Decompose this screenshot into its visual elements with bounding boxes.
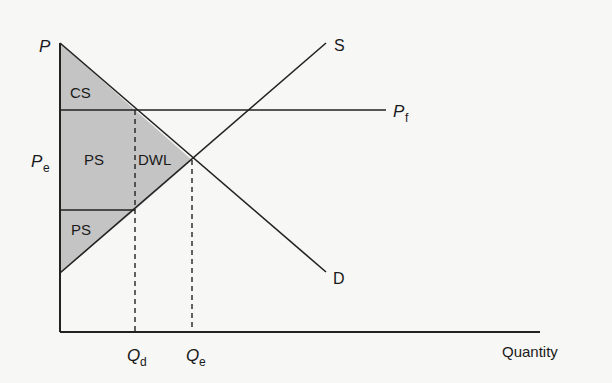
- qd-label-sub: d: [140, 355, 147, 369]
- ps-upper-region-label: PS: [84, 151, 104, 168]
- y-axis-label: P: [39, 37, 51, 56]
- x-axis-label: Quantity: [502, 343, 558, 360]
- pf-label-main: P: [393, 102, 405, 121]
- demand-label: D: [333, 270, 345, 287]
- supply-label: S: [334, 37, 345, 54]
- pe-label-main: P: [31, 152, 43, 171]
- dwl-region-label: DWL: [138, 151, 171, 168]
- ps-lower-region-label: PS: [71, 221, 91, 238]
- qe-label-sub: e: [199, 355, 206, 369]
- pe-label-sub: e: [43, 161, 50, 175]
- pf-label-sub: f: [405, 111, 409, 125]
- qe-label-main: Q: [186, 346, 199, 365]
- qd-label-main: Q: [127, 346, 140, 365]
- cs-region-label: CS: [70, 84, 91, 101]
- welfare-diagram: P Quantity S D P f P e Q d Q e CS PS DWL…: [0, 0, 612, 383]
